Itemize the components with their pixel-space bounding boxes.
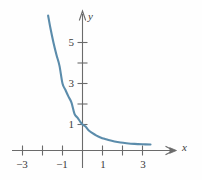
y-tick-label-5: 5 — [64, 37, 74, 48]
x-tick-label--1: −1 — [56, 159, 68, 170]
x-tick-label-1: 1 — [100, 159, 106, 170]
y-axis-label: y — [88, 11, 93, 22]
x-tick-label-3: 3 — [140, 159, 146, 170]
x-axis-label: x — [182, 142, 187, 153]
y-tick-label-3: 3 — [64, 78, 74, 89]
x-tick-label--3: −3 — [16, 159, 28, 170]
y-tick-label-1: 1 — [64, 119, 74, 130]
exponential-decay-graph-figure: −3 −1 1 3 1 3 5 x y — [0, 0, 202, 180]
plot-canvas — [0, 0, 202, 180]
